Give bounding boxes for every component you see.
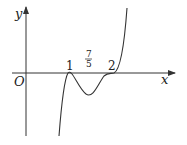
fraction-denominator: 5 [86, 59, 92, 69]
function-graph: y x O 1 7 5 2 [0, 0, 187, 145]
root-1-label: 1 [66, 59, 74, 73]
x-axis-label: x [161, 72, 169, 87]
fraction-numerator: 7 [86, 49, 92, 59]
origin-label: O [14, 74, 25, 89]
root-2-label: 2 [108, 59, 116, 73]
y-axis-label: y [14, 6, 23, 21]
